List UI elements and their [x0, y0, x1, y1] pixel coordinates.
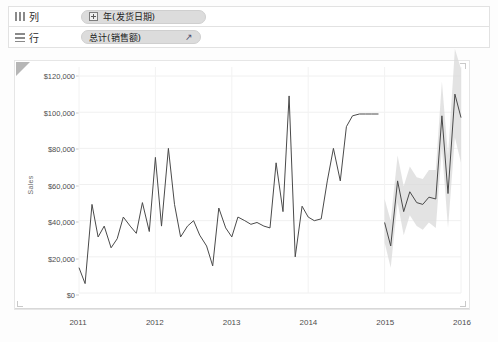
rows-grid-icon: [15, 33, 25, 42]
pill-sum-sales-label: 总计(销售额): [89, 31, 141, 44]
x-axis-tick-label: 2013: [223, 318, 241, 327]
x-axis-tick-label: 2014: [299, 318, 317, 327]
columns-shelf-label: 列: [9, 9, 81, 24]
forecast-arrow-icon: ↗: [185, 32, 193, 41]
columns-shelf-text: 列: [29, 9, 39, 24]
columns-grid-icon: [15, 12, 25, 21]
y-axis-tick-label: $80,000: [48, 145, 75, 154]
x-axis-tick-label: 2012: [146, 318, 164, 327]
y-axis-tick-label: $120,000: [44, 72, 75, 81]
sales-actual-line: [79, 96, 378, 284]
y-axis-labels: $0$20,000$40,000$60,000$80,000$100,000$1…: [31, 61, 79, 309]
pill-sum-sales[interactable]: 总计(销售额) ↗: [81, 30, 201, 44]
gridlines: [79, 76, 461, 293]
x-axis-tick-label: 2015: [376, 318, 394, 327]
plus-expand-icon[interactable]: [89, 12, 98, 21]
x-axis-labels: 201120122013201420152016: [14, 314, 470, 334]
rows-shelf-label: 行: [9, 30, 81, 45]
y-axis-tick-label: $0: [67, 291, 75, 300]
y-axis-tick-label: $60,000: [48, 181, 75, 190]
vertical-gridlines: [79, 67, 461, 293]
frame-tick-bottom-right: [460, 301, 466, 307]
rows-shelf[interactable]: 行 总计(销售额) ↗: [8, 27, 490, 48]
shelf-area: 列 年(发货日期) 行 总计(销售额) ↗: [8, 6, 490, 48]
forecast-confidence-band: [385, 49, 461, 268]
x-axis-tick-label: 2016: [453, 318, 471, 327]
x-axis-tick-label: 2011: [69, 318, 86, 327]
x-axis-baseline: [15, 308, 469, 309]
corner-triangle-icon: [16, 62, 30, 76]
frame-tick-bottom-left: [17, 301, 23, 307]
tableau-viz-root: 列 年(发货日期) 行 总计(销售额) ↗ Sales $0$20,000$40…: [0, 0, 498, 342]
columns-shelf[interactable]: 列 年(发货日期): [8, 6, 490, 27]
rows-shelf-text: 行: [29, 30, 39, 45]
pill-year-ship-date[interactable]: 年(发货日期): [81, 10, 206, 24]
line-chart-svg: [79, 67, 461, 293]
chart-frame: Sales $0$20,000$40,000$60,000$80,000$100…: [14, 60, 470, 310]
y-axis-tick-mark: [76, 295, 79, 296]
y-axis-tick-label: $100,000: [44, 108, 75, 117]
plot-area[interactable]: [79, 67, 461, 293]
pill-year-ship-date-label: 年(发货日期): [103, 10, 155, 23]
y-axis-tick-label: $40,000: [48, 218, 75, 227]
y-axis-tick-label: $20,000: [48, 254, 75, 263]
